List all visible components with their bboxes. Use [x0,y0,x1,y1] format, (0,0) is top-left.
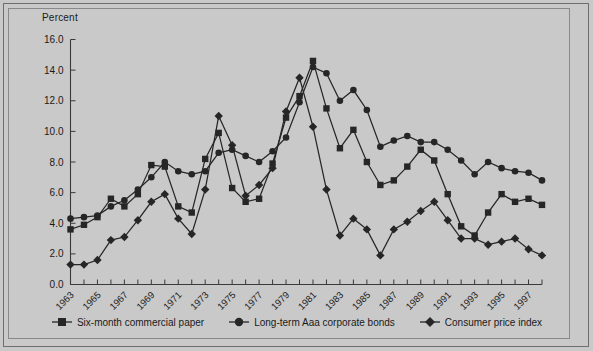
circle-marker [444,146,451,153]
square-marker [148,162,154,168]
diamond-marker [457,234,465,242]
circle-marker [458,157,465,164]
x-tick-label: 1989 [403,289,426,312]
diamond-marker [419,316,441,328]
series-line [71,61,543,236]
square-marker [175,203,181,209]
square-marker [350,127,356,133]
x-tick-label: 1979 [269,289,292,312]
series-circle-marker [67,64,545,222]
circle-marker [364,107,371,114]
x-tick-label: 1965 [80,289,103,312]
circle-marker [525,169,532,176]
chart-legend: Six-month commercial paper Long-term Aaa… [0,316,593,328]
y-tick-label: 4.0 [50,218,64,229]
circle-marker [135,186,142,193]
y-tick-label: 2.0 [50,248,64,259]
x-tick-label: 1987 [377,289,400,312]
square-marker [67,226,73,232]
circle-marker [485,159,492,166]
diamond-marker [93,256,101,264]
chart-figure: Percent 0.02.04.06.08.010.012.014.016.01… [0,0,593,351]
y-tick-label: 16.0 [44,34,64,45]
x-tick-label: 1997 [511,289,534,312]
diamond-marker [497,237,505,245]
x-tick-label: 1977 [242,289,265,312]
diamond-marker [538,251,546,259]
square-marker [377,182,383,188]
y-tick-label: 12.0 [44,95,64,106]
square-marker [256,196,262,202]
square-marker [512,199,518,205]
circle-marker [539,177,546,184]
square-marker [498,191,504,197]
square-marker [418,147,424,153]
circle-marker [162,159,169,166]
circle-marker [242,153,249,160]
square-marker [404,163,410,169]
circle-marker [215,150,222,157]
circle-marker [188,171,195,178]
circle-marker [121,197,128,204]
diamond-marker [484,240,492,248]
x-tick-label: 1993 [457,289,480,312]
x-tick-label: 1969 [134,289,157,312]
circle-marker [81,214,88,221]
x-tick-label: 1981 [296,289,319,312]
square-marker [525,196,531,202]
square-marker [458,223,464,229]
square-marker [51,316,73,328]
diamond-marker [376,251,384,259]
y-tick-label: 6.0 [50,187,64,198]
circle-marker [175,168,182,175]
square-marker [337,145,343,151]
circle-marker [108,203,115,210]
diamond-marker [228,141,236,149]
square-marker [189,209,195,215]
square-marker [431,157,437,163]
square-marker [323,105,329,111]
square-marker [364,159,370,165]
plot-area: 0.02.04.06.08.010.012.014.016.0196319651… [0,0,593,351]
circle-marker [391,137,398,144]
diamond-marker [390,225,398,233]
circle-marker [417,139,424,146]
series-line [71,67,543,219]
circle-marker [404,133,411,140]
square-marker [539,202,545,208]
circle-marker [512,168,519,175]
diamond-marker [214,112,222,120]
square-marker [310,58,316,64]
circle-marker [94,212,101,219]
diamond-marker [201,185,209,193]
diamond-marker [295,74,303,82]
x-tick-label: 1975 [215,289,238,312]
x-tick-label: 1985 [350,289,373,312]
diamond-marker [107,236,115,244]
square-marker [445,191,451,197]
circle-marker [228,316,250,328]
legend-item-six-month-commercial-paper: Six-month commercial paper [51,316,204,328]
diamond-marker [147,198,155,206]
square-marker [391,177,397,183]
square-marker [81,222,87,228]
legend-label: Long-term Aaa corporate bonds [254,317,395,328]
diamond-marker [430,198,438,206]
circle-marker [431,139,438,146]
circle-marker [256,159,263,166]
square-marker [202,156,208,162]
circle-marker [283,134,290,141]
x-tick-label: 1973 [188,289,211,312]
diamond-marker [161,190,169,198]
x-tick-label: 1971 [161,289,184,312]
square-marker [108,196,114,202]
diamond-marker [66,260,74,268]
x-tick-label: 1995 [484,289,507,312]
circle-marker [471,171,478,178]
y-tick-label: 14.0 [44,65,64,76]
circle-marker [296,99,303,106]
diamond-marker [322,185,330,193]
legend-label: Consumer price index [445,317,542,328]
circle-marker [67,215,74,222]
square-marker [121,203,127,209]
